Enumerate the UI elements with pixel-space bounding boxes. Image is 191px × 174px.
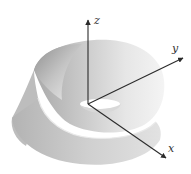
y-axis-label: y	[171, 42, 179, 55]
x-axis-label: x	[168, 142, 175, 155]
mobius-figure: z y x	[0, 0, 191, 174]
z-axis-label: z	[93, 14, 100, 27]
